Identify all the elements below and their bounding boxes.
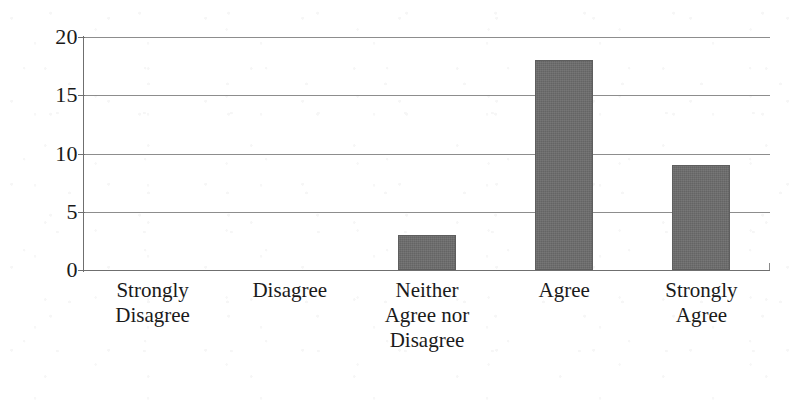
x-label-strongly-agree: StronglyAgree (633, 278, 770, 328)
bar-chart: 20 15 10 5 0 StronglyDisagree Disagree N… (0, 0, 807, 405)
y-tick-0 (78, 270, 85, 271)
x-label-line: Strongly (84, 278, 221, 303)
gridline-0 (84, 270, 770, 271)
y-tick-label-15: 15 (18, 84, 78, 106)
y-tick-label-0: 0 (18, 259, 78, 281)
bar-agree (535, 60, 593, 270)
y-tick-label-5: 5 (18, 201, 78, 223)
x-label-line: Disagree (221, 278, 358, 303)
x-label-line: Neither (358, 278, 495, 303)
bar-neither (398, 235, 456, 270)
x-label-disagree: Disagree (221, 278, 358, 303)
y-tick-label-10: 10 (18, 143, 78, 165)
x-label-agree: Agree (496, 278, 633, 303)
x-label-line: Agree (496, 278, 633, 303)
x-axis-labels: StronglyDisagree Disagree NeitherAgree n… (84, 278, 770, 388)
x-label-neither: NeitherAgree norDisagree (358, 278, 495, 353)
x-label-line: Strongly (633, 278, 770, 303)
x-label-strongly-disagree: StronglyDisagree (84, 278, 221, 328)
x-label-line: Disagree (84, 303, 221, 328)
x-label-line: Disagree (358, 328, 495, 353)
y-tick-label-20: 20 (18, 26, 78, 48)
x-label-line: Agree (633, 303, 770, 328)
bar-series (84, 37, 770, 270)
x-label-line: Agree nor (358, 303, 495, 328)
bar-strongly-agree (672, 165, 730, 270)
